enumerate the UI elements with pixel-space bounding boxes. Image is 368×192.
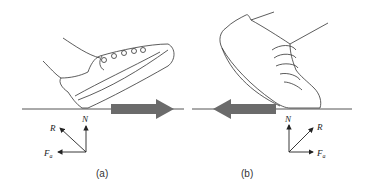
- normal-force-label: N: [284, 114, 292, 124]
- shoe-a-illustration: [43, 38, 174, 108]
- caption-a: (a): [96, 168, 108, 179]
- normal-force-label: N: [81, 114, 89, 124]
- resultant-force-arrow-icon: [60, 128, 86, 152]
- friction-force-label: Fa: [43, 148, 53, 159]
- resultant-force-arrow-icon: [289, 128, 313, 152]
- panel-a: N R Fa (a): [22, 38, 184, 179]
- shoe-b-illustration: [220, 12, 328, 108]
- resultant-force-label: R: [316, 122, 323, 132]
- force-vectors-a: [58, 126, 86, 152]
- caption-b: (b): [241, 168, 253, 179]
- panel-b: N R Fa (b): [192, 12, 352, 179]
- motion-arrow-left-icon: [213, 99, 276, 119]
- motion-arrow-right-icon: [111, 99, 174, 119]
- force-vectors-b: [289, 125, 313, 152]
- diagram-canvas: N R Fa (a): [0, 0, 368, 192]
- resultant-force-label: R: [49, 123, 56, 133]
- friction-force-label: Fa: [316, 148, 326, 159]
